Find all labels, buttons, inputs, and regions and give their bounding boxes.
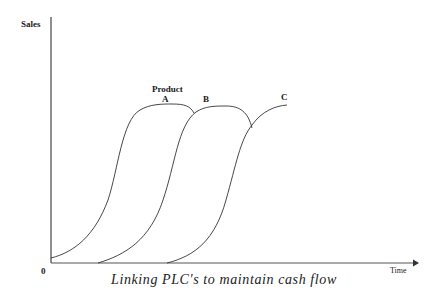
curve-label-a: A bbox=[162, 94, 169, 104]
origin-label: 0 bbox=[41, 266, 46, 276]
x-axis-label: Time bbox=[390, 266, 407, 275]
curve-product-a bbox=[51, 104, 194, 258]
x-axis-arrow-icon bbox=[413, 260, 419, 267]
diagram-caption: Linking PLC's to maintain cash flow bbox=[111, 272, 337, 288]
curve-product-c bbox=[167, 105, 287, 263]
curve-label-b: B bbox=[203, 94, 209, 104]
plc-diagram bbox=[0, 0, 438, 298]
y-axis-label: Sales bbox=[21, 19, 41, 29]
curve-label-c: C bbox=[281, 92, 288, 102]
curve-product-b bbox=[98, 106, 252, 263]
product-group-label: Product bbox=[152, 84, 183, 94]
